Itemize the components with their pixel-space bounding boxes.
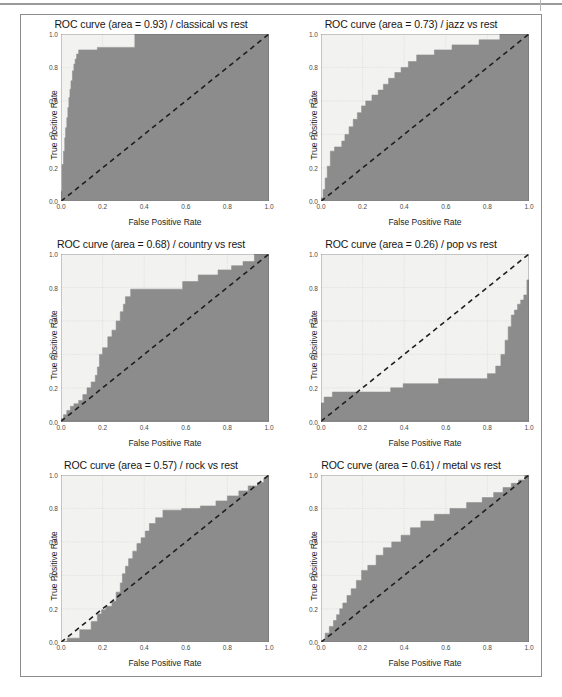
x-tick-label: 0.2 — [98, 644, 107, 651]
roc-panel-country: ROC curve (area = 0.68) / country vs res… — [21, 235, 281, 455]
plot-area: 0.00.20.40.60.81.00.00.20.40.60.81.0 — [321, 254, 529, 421]
x-tick-label: 0.2 — [98, 203, 107, 210]
y-tick-label: 0.8 — [309, 64, 318, 71]
plot-area: 0.00.20.40.60.81.00.00.20.40.60.81.0 — [61, 254, 269, 421]
x-tick-label: 0.6 — [181, 203, 190, 210]
plot-area: 0.00.20.40.60.81.00.00.20.40.60.81.0 — [61, 34, 269, 201]
roc-plot-svg — [61, 254, 269, 421]
y-tick-label: 0.6 — [49, 97, 58, 104]
x-axis-label: False Positive Rate — [61, 658, 269, 668]
y-tick-label: 0.8 — [49, 505, 58, 512]
x-tick-label: 0.0 — [316, 644, 325, 651]
x-tick-label: 0.8 — [223, 203, 232, 210]
y-tick-label: 0.8 — [309, 284, 318, 291]
y-tick-label: 0.2 — [309, 605, 318, 612]
panel-title: ROC curve (area = 0.68) / country vs res… — [21, 238, 281, 250]
plot-area: 0.00.20.40.60.81.00.00.20.40.60.81.0 — [321, 475, 529, 642]
y-tick-label: 0.4 — [49, 351, 58, 358]
roc-plot-svg — [61, 475, 269, 642]
y-tick-label: 1.0 — [309, 251, 318, 258]
y-tick-label: 0.2 — [49, 164, 58, 171]
x-axis-label: False Positive Rate — [321, 217, 529, 227]
x-tick-label: 0.0 — [316, 424, 325, 431]
x-tick-label: 1.0 — [524, 203, 533, 210]
roc-panel-jazz: ROC curve (area = 0.73) / jazz vs restTr… — [281, 15, 541, 235]
y-tick-label: 1.0 — [49, 471, 58, 478]
x-tick-label: 0.6 — [181, 644, 190, 651]
x-tick-label: 0.0 — [316, 203, 325, 210]
roc-plot-svg — [61, 34, 269, 201]
x-tick-label: 0.4 — [140, 424, 149, 431]
x-axis-label: False Positive Rate — [61, 217, 269, 227]
x-tick-label: 0.8 — [223, 644, 232, 651]
plot-area: 0.00.20.40.60.81.00.00.20.40.60.81.0 — [61, 475, 269, 642]
y-tick-label: 0.6 — [309, 318, 318, 325]
y-tick-label: 0.8 — [49, 284, 58, 291]
y-tick-label: 0.8 — [309, 505, 318, 512]
y-tick-label: 0.2 — [49, 385, 58, 392]
x-tick-label: 0.8 — [483, 203, 492, 210]
x-tick-label: 0.8 — [483, 644, 492, 651]
panel-title: ROC curve (area = 0.57) / rock vs rest — [21, 459, 281, 471]
x-tick-label: 0.4 — [140, 644, 149, 651]
y-tick-label: 0.4 — [49, 572, 58, 579]
x-tick-label: 1.0 — [264, 424, 273, 431]
x-tick-label: 1.0 — [524, 424, 533, 431]
x-tick-label: 0.4 — [400, 644, 409, 651]
x-tick-label: 0.6 — [441, 424, 450, 431]
x-tick-label: 0.2 — [358, 644, 367, 651]
x-tick-label: 1.0 — [264, 203, 273, 210]
plot-area: 0.00.20.40.60.81.00.00.20.40.60.81.0 — [321, 34, 529, 201]
y-tick-label: 0.2 — [309, 164, 318, 171]
x-tick-label: 0.4 — [400, 203, 409, 210]
y-tick-label: 1.0 — [309, 471, 318, 478]
y-tick-label: 1.0 — [49, 251, 58, 258]
x-tick-label: 1.0 — [524, 644, 533, 651]
y-tick-label: 0.6 — [309, 97, 318, 104]
x-tick-label: 0.2 — [98, 424, 107, 431]
y-tick-label: 0.4 — [309, 572, 318, 579]
roc-panel-metal: ROC curve (area = 0.61) / metal vs restT… — [281, 456, 541, 676]
x-tick-label: 1.0 — [264, 644, 273, 651]
x-tick-label: 0.0 — [56, 424, 65, 431]
y-tick-label: 1.0 — [49, 31, 58, 38]
x-tick-label: 0.0 — [56, 644, 65, 651]
y-tick-label: 0.2 — [309, 385, 318, 392]
x-tick-label: 0.6 — [441, 203, 450, 210]
x-tick-label: 0.4 — [400, 424, 409, 431]
panel-title: ROC curve (area = 0.73) / jazz vs rest — [281, 18, 541, 30]
y-tick-label: 0.2 — [49, 605, 58, 612]
x-axis-label: False Positive Rate — [61, 438, 269, 448]
x-tick-label: 0.6 — [441, 644, 450, 651]
x-tick-label: 0.8 — [483, 424, 492, 431]
y-tick-label: 0.6 — [309, 538, 318, 545]
roc-plot-svg — [321, 475, 529, 642]
x-axis-label: False Positive Rate — [321, 658, 529, 668]
panel-title: ROC curve (area = 0.26) / pop vs rest — [281, 238, 541, 250]
y-tick-label: 0.4 — [309, 131, 318, 138]
x-tick-label: 0.4 — [140, 203, 149, 210]
page-margin-tick — [540, 0, 541, 11]
roc-panel-rock: ROC curve (area = 0.57) / rock vs restTr… — [21, 456, 281, 676]
y-tick-label: 0.8 — [49, 64, 58, 71]
y-tick-label: 0.6 — [49, 318, 58, 325]
x-tick-label: 0.0 — [56, 203, 65, 210]
panel-title: ROC curve (area = 0.93) / classical vs r… — [21, 18, 281, 30]
roc-panel-pop: ROC curve (area = 0.26) / pop vs restTru… — [281, 235, 541, 455]
roc-panel-classical: ROC curve (area = 0.93) / classical vs r… — [21, 15, 281, 235]
figure-frame: ROC curve (area = 0.93) / classical vs r… — [20, 14, 542, 677]
x-tick-label: 0.8 — [223, 424, 232, 431]
x-tick-label: 0.2 — [358, 203, 367, 210]
roc-plot-svg — [321, 254, 529, 421]
roc-plot-svg — [321, 34, 529, 201]
panel-title: ROC curve (area = 0.61) / metal vs rest — [281, 459, 541, 471]
page-top-rule — [0, 3, 562, 5]
y-tick-label: 0.6 — [49, 538, 58, 545]
y-tick-label: 0.4 — [309, 351, 318, 358]
y-tick-label: 0.4 — [49, 131, 58, 138]
x-tick-label: 0.2 — [358, 424, 367, 431]
x-axis-label: False Positive Rate — [321, 438, 529, 448]
y-tick-label: 1.0 — [309, 31, 318, 38]
x-tick-label: 0.6 — [181, 424, 190, 431]
roc-panel-grid: ROC curve (area = 0.93) / classical vs r… — [21, 15, 541, 676]
